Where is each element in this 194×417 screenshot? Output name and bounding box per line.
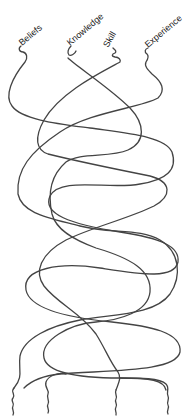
braided-strands-diagram: Beliefs Knowledge Skill Experience [0, 0, 194, 417]
tail-2 [46, 373, 66, 413]
label-experience: Experience [143, 13, 184, 50]
strand-experience [14, 48, 177, 388]
label-knowledge: Knowledge [65, 11, 106, 47]
strand-skill [38, 48, 167, 390]
strand-knowledge [44, 46, 166, 390]
tail-1 [12, 388, 14, 415]
label-beliefs: Beliefs [17, 22, 45, 47]
label-skill: Skill [101, 30, 118, 49]
tail-3 [115, 390, 116, 415]
